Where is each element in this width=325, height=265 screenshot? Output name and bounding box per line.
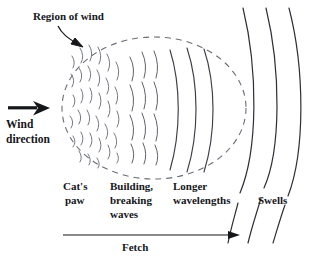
label-longer-line1: Longer: [173, 180, 207, 192]
label-swells: Swells: [258, 194, 287, 206]
building-breaking-waves: [130, 51, 158, 165]
label-building-line2: breaking: [110, 194, 152, 206]
label-building-line1: Building,: [110, 180, 153, 192]
wind-direction-arrow: [8, 101, 50, 116]
label-cats-paw-line2: paw: [65, 194, 85, 206]
longer-wavelength-crests: [170, 48, 213, 172]
label-wind-direction-line1: Wind: [6, 118, 33, 130]
fetch-arrow: [63, 231, 240, 239]
cats-paw-ripples: [70, 45, 119, 168]
wave-fetch-diagram: Region of wind Wind direction Cat's paw …: [0, 0, 325, 265]
label-building-line3: waves: [110, 208, 138, 220]
label-longer-line2: wavelengths: [173, 194, 230, 206]
label-fetch: Fetch: [122, 241, 148, 253]
label-cats-paw-line1: Cat's: [63, 180, 87, 192]
label-wind-direction-line2: direction: [6, 133, 50, 145]
region-of-wind-arrow: [58, 26, 83, 47]
label-region-of-wind: Region of wind: [33, 10, 104, 22]
swell-crests: [228, 8, 301, 243]
